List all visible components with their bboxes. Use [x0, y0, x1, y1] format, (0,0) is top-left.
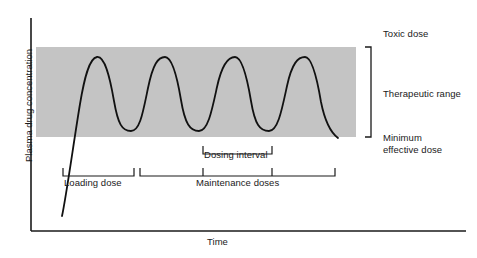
- dosing-interval-label: Dosing interval: [204, 149, 268, 161]
- therapeutic-range-band: [36, 47, 356, 137]
- min-effective-dose-line-1: Minimum: [383, 132, 422, 143]
- therapeutic-range-label: Therapeutic range: [383, 88, 461, 100]
- pharmacokinetics-figure: Plasma drug concentration Time Toxic dos…: [0, 0, 477, 258]
- maintenance-doses-bracket: [140, 168, 335, 176]
- toxic-dose-label: Toxic dose: [383, 28, 428, 40]
- therapeutic-range-bracket: [365, 47, 371, 137]
- loading-dose-label: Loading dose: [64, 177, 122, 189]
- minimum-effective-dose-label: Minimumeffective dose: [383, 132, 442, 155]
- x-axis-label: Time: [207, 236, 228, 248]
- maintenance-doses-label: Maintenance doses: [196, 177, 279, 189]
- loading-dose-bracket: [63, 168, 134, 176]
- y-axis-label: Plasma drug concentration: [23, 26, 34, 186]
- min-effective-dose-line-2: effective dose: [383, 144, 442, 155]
